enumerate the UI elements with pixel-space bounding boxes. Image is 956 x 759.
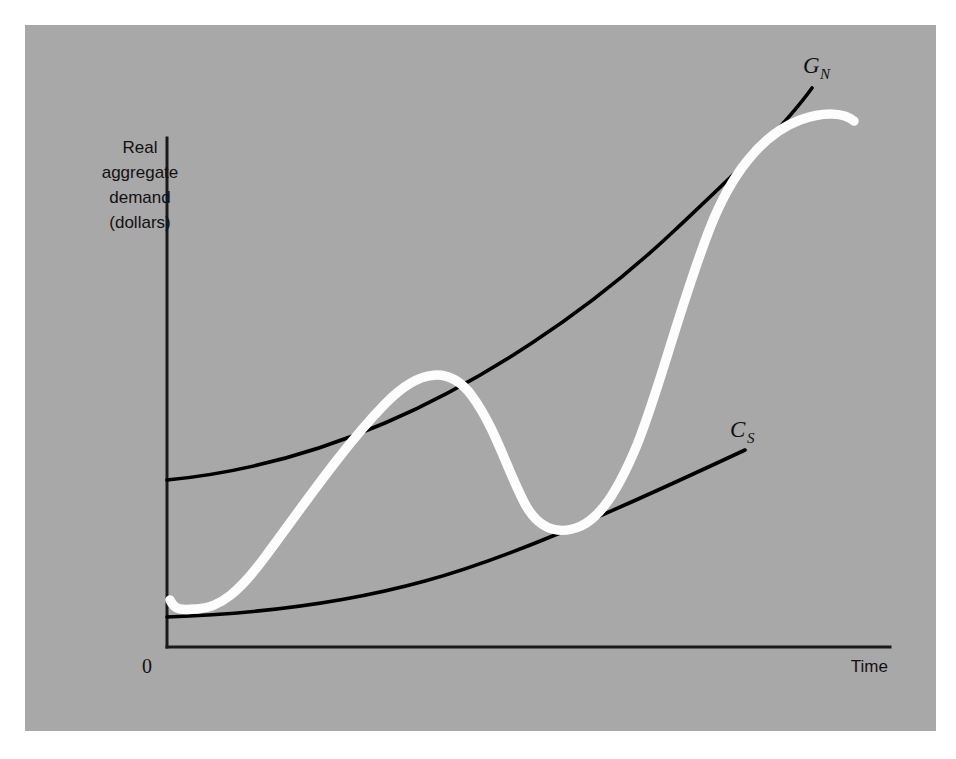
origin-label: 0 bbox=[142, 655, 152, 677]
curve-label-consumption-sub: S bbox=[747, 430, 755, 446]
curve-label-growth-sub: N bbox=[819, 66, 831, 82]
plot-area: Real aggregate demand (dollars) 0 Time G… bbox=[25, 25, 936, 731]
curve-actual-aggregate-demand bbox=[170, 114, 854, 610]
y-axis-title-line-2: aggregate bbox=[102, 163, 179, 182]
axes-group bbox=[167, 138, 890, 647]
curve-label-growth: G N bbox=[803, 53, 831, 82]
curve-consumption-trend bbox=[167, 450, 745, 617]
curve-label-consumption-main: C bbox=[730, 417, 746, 442]
figure-root: Real aggregate demand (dollars) 0 Time G… bbox=[0, 0, 956, 759]
curve-label-consumption: C S bbox=[730, 417, 755, 446]
chart-panel: Real aggregate demand (dollars) 0 Time G… bbox=[25, 25, 936, 731]
y-axis-title-line-1: Real bbox=[123, 138, 158, 157]
curve-label-growth-main: G bbox=[803, 53, 820, 78]
y-axis-title-line-3: demand bbox=[109, 188, 170, 207]
y-axis-title-line-4: (dollars) bbox=[109, 213, 170, 232]
x-axis-title: Time bbox=[851, 657, 888, 676]
